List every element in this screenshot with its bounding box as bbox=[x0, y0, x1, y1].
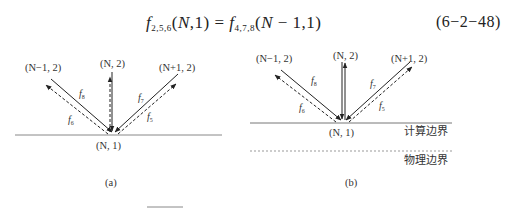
figure-canvas: (N−1, 2) (N, 2) (N+1, 2) (N, 1) f8 f6 f7… bbox=[0, 0, 509, 211]
node-label-n-plus-1-2: (N+1, 2) bbox=[159, 62, 196, 74]
f7-incoming-arrow bbox=[115, 74, 178, 132]
f6-outgoing-arrow bbox=[46, 85, 108, 134]
node-label-n-1-b: (N, 1) bbox=[329, 127, 355, 139]
f7-label: f7 bbox=[138, 92, 144, 104]
node-label-n-minus-1-2: (N−1, 2) bbox=[25, 62, 62, 74]
figure-a: (N−1, 2) (N, 2) (N+1, 2) (N, 1) f8 f6 f7… bbox=[15, 58, 222, 189]
computational-boundary-label: 计算边界 bbox=[404, 124, 448, 138]
f8-label-b: f8 bbox=[311, 75, 317, 87]
f5-label-b: f5 bbox=[379, 100, 385, 112]
figure-b: (N−1, 2) (N, 2) (N+1, 2) (N, 1) f8 f6 f7… bbox=[250, 50, 452, 189]
f5-outgoing-arrow bbox=[118, 84, 176, 134]
f6-label-b: f6 bbox=[299, 102, 305, 114]
f6-outgoing-arrow-b bbox=[275, 75, 336, 122]
node-label-n-plus-1-2-b: (N+1, 2) bbox=[391, 53, 428, 65]
f5-label: f5 bbox=[147, 111, 153, 123]
f7-incoming-arrow-b bbox=[346, 62, 410, 120]
figure-b-caption: (b) bbox=[345, 177, 358, 189]
f5-outgoing-arrow-b bbox=[349, 67, 412, 122]
f7-label-b: f7 bbox=[370, 78, 376, 90]
node-label-n-minus-1-2-b: (N−1, 2) bbox=[256, 53, 293, 65]
f6-label: f6 bbox=[68, 114, 74, 126]
f8-incoming-arrow bbox=[51, 79, 112, 132]
figure-a-caption: (a) bbox=[105, 177, 117, 189]
f8-label: f8 bbox=[79, 88, 85, 100]
physical-boundary-label: 物理边界 bbox=[404, 153, 448, 167]
node-label-n-2-b: (N, 2) bbox=[333, 50, 359, 62]
node-label-n-2: (N, 2) bbox=[100, 58, 126, 70]
node-label-n-1: (N, 1) bbox=[96, 140, 122, 152]
